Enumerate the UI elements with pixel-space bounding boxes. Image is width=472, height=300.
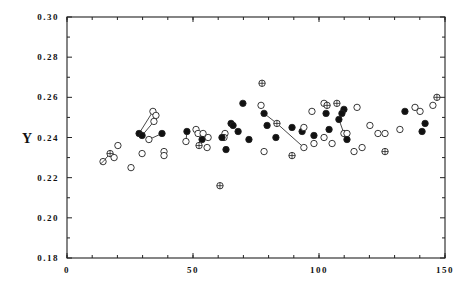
data-point-open-marker-icon	[183, 138, 189, 144]
data-point-open-marker-icon	[397, 126, 403, 132]
data-point-filled-marker-icon	[336, 116, 342, 122]
data-point-open-marker-icon	[417, 108, 423, 114]
data-point-open-marker-icon	[321, 134, 327, 140]
data-point-filled-marker-icon	[311, 132, 317, 138]
y-tick-label: 0.18	[37, 253, 59, 263]
data-point-open-marker-icon	[375, 130, 381, 136]
data-point-open-marker-icon	[329, 140, 335, 146]
data-point-open-marker-icon	[161, 152, 167, 158]
x-tick-label: 150	[436, 265, 454, 275]
data-point-open-marker-icon	[354, 104, 360, 110]
data-point-open-marker-icon	[261, 148, 267, 154]
data-point-filled-marker-icon	[273, 134, 279, 140]
connector-line	[264, 113, 304, 147]
data-point-filled-marker-icon	[323, 110, 329, 116]
plot-frame	[67, 17, 445, 258]
data-point-filled-marker-icon	[139, 132, 145, 138]
data-point-filled-marker-icon	[230, 122, 236, 128]
data-point-filled-marker-icon	[419, 128, 425, 134]
y-tick-label: 0.28	[37, 52, 59, 62]
data-point-open-marker-icon	[151, 118, 157, 124]
y-tick-label: 0.24	[37, 133, 59, 143]
data-point-filled-marker-icon	[246, 136, 252, 142]
data-point-open-marker-icon	[205, 134, 211, 140]
data-point-filled-marker-icon	[422, 120, 428, 126]
data-point-filled-marker-icon	[159, 130, 165, 136]
data-point-open-marker-icon	[301, 144, 307, 150]
data-point-filled-marker-icon	[264, 122, 270, 128]
y-tick-label: 0.20	[37, 213, 59, 223]
data-point-filled-marker-icon	[326, 126, 332, 132]
data-point-filled-marker-icon	[199, 136, 205, 142]
y-tick-label: 0.30	[37, 12, 59, 22]
scatter-chart: 0501001500.180.200.220.240.260.280.30 Y	[0, 0, 472, 300]
x-tick-label: 50	[187, 265, 199, 275]
y-tick-label: 0.22	[37, 173, 59, 183]
data-point-open-marker-icon	[258, 102, 264, 108]
data-point-open-marker-icon	[359, 144, 365, 150]
data-point-filled-marker-icon	[219, 134, 225, 140]
data-point-open-marker-icon	[128, 164, 134, 170]
data-point-open-marker-icon	[382, 130, 388, 136]
data-point-filled-marker-icon	[261, 110, 267, 116]
data-point-open-marker-icon	[367, 122, 373, 128]
y-tick-label: 0.26	[37, 92, 59, 102]
data-points	[100, 80, 440, 189]
data-point-open-marker-icon	[351, 148, 357, 154]
data-point-open-marker-icon	[139, 150, 145, 156]
data-point-open-marker-icon	[153, 112, 159, 118]
y-axis-title: Y	[22, 131, 32, 146]
data-point-filled-marker-icon	[184, 128, 190, 134]
data-point-open-marker-icon	[344, 130, 350, 136]
plot-axes: 0501001500.180.200.220.240.260.280.30	[37, 12, 454, 275]
data-point-open-marker-icon	[115, 142, 121, 148]
data-point-filled-marker-icon	[235, 128, 241, 134]
data-point-filled-marker-icon	[402, 108, 408, 114]
x-tick-label: 0	[64, 265, 70, 275]
data-point-open-marker-icon	[311, 140, 317, 146]
data-point-open-marker-icon	[430, 102, 436, 108]
data-point-filled-marker-icon	[223, 146, 229, 152]
data-point-open-marker-icon	[309, 108, 315, 114]
data-point-filled-marker-icon	[289, 124, 295, 130]
data-point-filled-marker-icon	[344, 136, 350, 142]
data-point-open-marker-icon	[146, 136, 152, 142]
x-tick-label: 100	[310, 265, 328, 275]
data-point-filled-marker-icon	[339, 110, 345, 116]
data-point-open-marker-icon	[204, 144, 210, 150]
data-point-open-marker-icon	[301, 124, 307, 130]
data-point-open-marker-icon	[111, 154, 117, 160]
data-point-filled-marker-icon	[240, 100, 246, 106]
